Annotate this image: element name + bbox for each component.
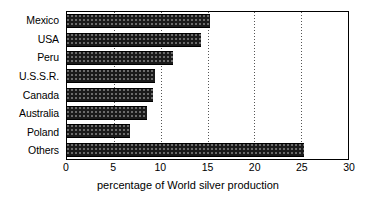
bar <box>67 143 304 157</box>
x-tick-label: 10 <box>154 162 166 173</box>
category-label: Canada <box>0 86 63 105</box>
bar-series <box>67 12 348 159</box>
bar-row <box>67 67 348 85</box>
category-label: Peru <box>0 48 63 67</box>
bar-row <box>67 30 348 48</box>
bar-chart: MexicoUSAPeruU.S.S.R.CanadaAustraliaPola… <box>0 0 376 202</box>
x-tick-label: 15 <box>202 162 214 173</box>
category-label: Poland <box>0 123 63 142</box>
category-label: Others <box>0 141 63 160</box>
x-axis-title: percentage of World silver production <box>0 179 376 191</box>
bar <box>67 51 173 65</box>
category-label: U.S.S.R. <box>0 67 63 86</box>
bar <box>67 33 201 47</box>
plot-area <box>66 11 349 160</box>
category-axis: MexicoUSAPeruU.S.S.R.CanadaAustraliaPola… <box>0 11 63 160</box>
bar-row <box>67 122 348 140</box>
x-axis: 051015202530 <box>66 160 349 178</box>
bar <box>67 124 130 138</box>
x-tick-label: 30 <box>343 162 355 173</box>
x-tick-label: 20 <box>249 162 261 173</box>
bar-row <box>67 104 348 122</box>
bar <box>67 14 210 28</box>
category-label: Australia <box>0 104 63 123</box>
bar-row <box>67 12 348 30</box>
bar-row <box>67 141 348 159</box>
bar-row <box>67 86 348 104</box>
bar <box>67 106 147 120</box>
x-tick-label: 25 <box>296 162 308 173</box>
x-tick-label: 0 <box>63 162 69 173</box>
category-label: Mexico <box>0 11 63 30</box>
bar <box>67 88 153 102</box>
category-label: USA <box>0 30 63 49</box>
bar-row <box>67 49 348 67</box>
bar <box>67 69 155 83</box>
x-tick-label: 5 <box>110 162 116 173</box>
